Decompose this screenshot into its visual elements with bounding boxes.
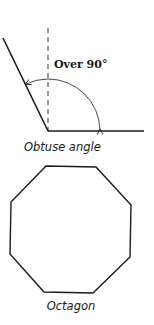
angle-label: Over 90° bbox=[54, 58, 107, 71]
octagon-shape bbox=[10, 166, 131, 293]
obtuse-angle-figure: Over 90° Obtuse angle bbox=[3, 28, 144, 154]
angle-ray-slanted bbox=[3, 38, 48, 131]
diagram-canvas: Over 90° Obtuse angle Octagon bbox=[0, 0, 154, 325]
obtuse-angle-caption: Obtuse angle bbox=[24, 140, 101, 154]
angle-arc bbox=[26, 79, 100, 130]
octagon-caption: Octagon bbox=[47, 299, 96, 313]
octagon-figure: Octagon bbox=[10, 166, 131, 313]
